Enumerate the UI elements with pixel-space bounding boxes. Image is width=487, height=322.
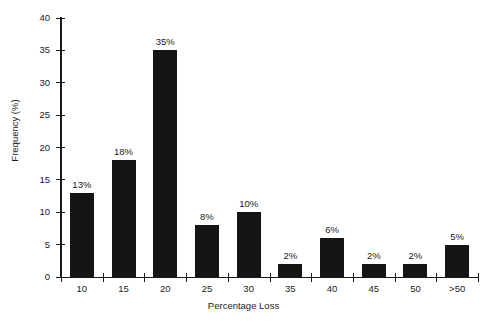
- y-axis-tick-label: 0: [10, 272, 50, 282]
- x-axis-tick-label: 45: [352, 284, 396, 294]
- x-axis-tick-label: 25: [185, 284, 229, 294]
- bar[interactable]: [278, 264, 302, 277]
- y-axis-tick-label: 5: [10, 240, 50, 250]
- bar[interactable]: [153, 50, 177, 277]
- bar[interactable]: [403, 264, 427, 277]
- y-axis-tick-label: 35: [10, 45, 50, 55]
- bar[interactable]: [362, 264, 386, 277]
- x-axis-tick-label: 20: [143, 284, 187, 294]
- bar-value-label: 2%: [352, 251, 396, 261]
- bar-value-label: 13%: [60, 180, 104, 190]
- bar-value-label: 8%: [185, 212, 229, 222]
- bar[interactable]: [112, 160, 136, 277]
- bar-value-label: 5%: [435, 232, 479, 242]
- bar-value-label: 35%: [143, 37, 187, 47]
- x-axis-tick-label: 50: [393, 284, 437, 294]
- x-axis-tick-label: 35: [268, 284, 312, 294]
- y-axis-tick-label: 10: [10, 207, 50, 217]
- x-axis-tick-label: 30: [227, 284, 271, 294]
- bar-value-label: 2%: [268, 251, 312, 261]
- x-axis-tick: [478, 273, 479, 282]
- x-axis-tick-label: 15: [102, 284, 146, 294]
- bar-value-label: 18%: [102, 147, 146, 157]
- x-axis-tick-label: 40: [310, 284, 354, 294]
- bars-group: 13%18%35%8%10%2%6%2%2%5%: [61, 18, 478, 277]
- bar-chart: 0510152025303540 101520253035404550>50 1…: [0, 0, 487, 322]
- bar[interactable]: [195, 225, 219, 277]
- bar[interactable]: [445, 245, 469, 277]
- y-axis-title: Frequency (%): [9, 71, 20, 191]
- bar[interactable]: [320, 238, 344, 277]
- bar-value-label: 2%: [393, 251, 437, 261]
- x-axis-tick-label: >50: [435, 284, 479, 294]
- bar-value-label: 6%: [310, 225, 354, 235]
- y-axis-tick-label: 40: [10, 13, 50, 23]
- bar[interactable]: [70, 193, 94, 277]
- x-axis-tick-label: 10: [60, 284, 104, 294]
- bar[interactable]: [237, 212, 261, 277]
- bar-value-label: 10%: [227, 199, 271, 209]
- x-axis-title: Percentage Loss: [0, 300, 487, 311]
